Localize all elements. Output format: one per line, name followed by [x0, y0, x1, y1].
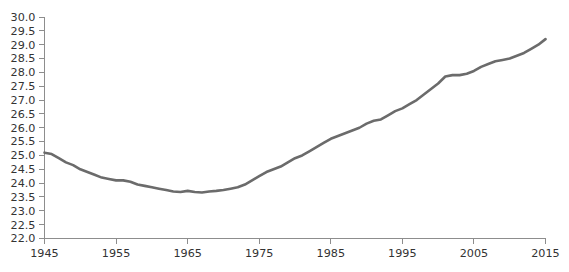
y-tick-label: 29.0	[11, 39, 36, 52]
y-tick-label: 26.0	[11, 122, 36, 135]
y-tick-label: 25.5	[11, 135, 36, 148]
y-tick-label: 27.0	[11, 94, 36, 107]
line-chart: 22.022.523.023.524.024.525.025.526.026.5…	[0, 0, 569, 272]
chart-canvas: 22.022.523.023.524.024.525.025.526.026.5…	[0, 0, 569, 272]
y-tick-label: 25.0	[11, 149, 36, 162]
y-tick-label: 28.5	[11, 52, 36, 65]
x-tick-label: 1965	[173, 247, 201, 260]
y-tick-label: 24.0	[11, 177, 36, 190]
y-tick-label: 29.5	[11, 25, 36, 38]
y-axis: 22.022.523.023.524.024.525.025.526.026.5…	[11, 11, 45, 246]
x-tick-label: 1995	[388, 247, 416, 260]
series-line	[45, 39, 546, 192]
y-tick-label: 28.0	[11, 66, 36, 79]
x-tick-label: 1985	[317, 247, 345, 260]
y-tick-label: 27.5	[11, 80, 36, 93]
y-tick-label: 24.5	[11, 163, 36, 176]
x-tick-label: 1975	[245, 247, 273, 260]
x-tick-label: 2015	[531, 247, 559, 260]
y-tick-label: 26.5	[11, 108, 36, 121]
y-tick-label: 23.0	[11, 205, 36, 218]
x-tick-label: 2005	[460, 247, 488, 260]
x-tick-label: 1955	[102, 247, 130, 260]
y-tick-label: 22.0	[11, 232, 36, 245]
y-tick-label: 23.5	[11, 191, 36, 204]
y-tick-label: 22.5	[11, 219, 36, 232]
data-series	[45, 39, 546, 192]
y-tick-label: 30.0	[11, 11, 36, 24]
x-tick-label: 1945	[30, 247, 58, 260]
x-axis: 19451955196519751985199520052015	[30, 239, 559, 260]
